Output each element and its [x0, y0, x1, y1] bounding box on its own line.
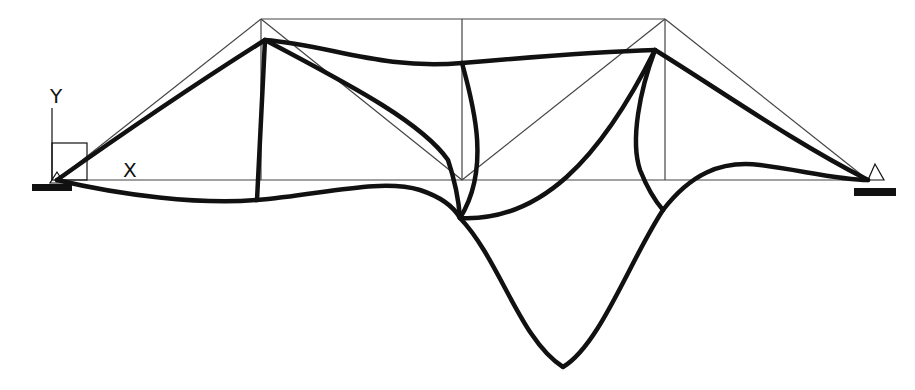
deformed-right-end-diagonal [655, 50, 868, 180]
deformed-top-chord-left [265, 40, 462, 64]
right-support-triangle-icon [868, 164, 884, 180]
deformed-bottom-chord-right [663, 164, 868, 210]
deformed-bottom-chord-mid [460, 210, 663, 367]
deformed-diagonal-right [460, 50, 655, 218]
deformed-diagonal-left [265, 40, 460, 218]
deformed-vertical-2 [460, 63, 477, 218]
x-axis-label: X [123, 160, 137, 180]
deformed-left-end-diagonal [57, 40, 265, 180]
y-axis-label: Y [50, 86, 62, 106]
deformed-top-chord-right [462, 50, 655, 63]
right-end-diagonal [665, 19, 868, 180]
left-support-base [32, 184, 72, 191]
diagonal-right [462, 19, 665, 180]
undeformed-truss [57, 19, 868, 180]
truss-diagram [0, 0, 915, 390]
right-support-base [854, 188, 896, 196]
